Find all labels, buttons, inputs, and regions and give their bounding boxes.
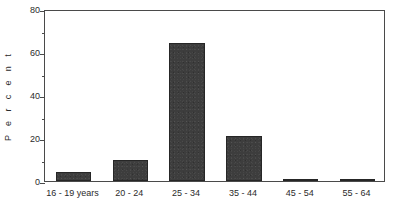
bar	[169, 43, 204, 181]
x-axis-tick-label: 55 - 64	[328, 188, 385, 199]
bar	[226, 136, 261, 181]
bar	[283, 179, 318, 181]
y-axis-tick-label: 60	[16, 49, 40, 58]
x-axis-tick-labels: 16 - 19 years20 - 2425 - 3435 - 4445 - 5…	[44, 188, 385, 208]
x-axis-tick-label: 16 - 19 years	[44, 188, 101, 199]
y-axis-tick-label: 0	[16, 178, 40, 187]
x-axis-tick-label: 35 - 44	[215, 188, 272, 199]
y-axis-major-tick	[40, 183, 45, 184]
y-axis-tick-label: 40	[16, 92, 40, 101]
chart-figure: P e r c e n t 020406080 16 - 19 years20 …	[0, 0, 397, 219]
bar	[340, 179, 375, 181]
y-axis-tick-labels: 020406080	[12, 0, 40, 219]
y-axis-tick-label: 20	[16, 135, 40, 144]
x-axis-tick-label: 25 - 34	[158, 188, 215, 199]
y-axis-tick-label: 80	[16, 6, 40, 15]
bar	[113, 160, 148, 182]
bar	[56, 172, 91, 181]
x-axis-tick-label: 20 - 24	[101, 188, 158, 199]
x-axis-tick-label: 45 - 54	[271, 188, 328, 199]
bars-layer	[45, 11, 384, 181]
plot-area	[44, 10, 385, 182]
